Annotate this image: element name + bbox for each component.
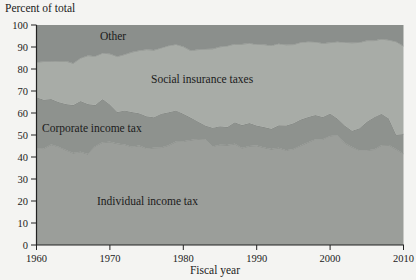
- x-tick-label: 1970: [99, 253, 120, 264]
- area-label-individual-income-tax: Individual income tax: [97, 195, 198, 207]
- x-tick-label: 1990: [246, 253, 267, 264]
- area-individual-income-tax: [37, 135, 404, 245]
- stacked-area-chart: 0102030405060708090100196019701980199020…: [0, 0, 416, 280]
- y-tick-label: 10: [18, 218, 29, 229]
- y-axis-title: Percent of total: [5, 2, 75, 14]
- federal-receipts-stacked-area-figure: 0102030405060708090100196019701980199020…: [0, 0, 416, 280]
- x-tick-label: 2010: [393, 253, 414, 264]
- y-tick-label: 50: [18, 130, 29, 141]
- y-tick-label: 70: [18, 86, 29, 97]
- x-axis-title: Fiscal year: [190, 264, 240, 277]
- y-tick-label: 20: [18, 196, 29, 207]
- area-label-other: Other: [100, 30, 126, 42]
- area-label-corporate-income-tax: Corporate income tax: [42, 122, 142, 135]
- y-tick-label: 0: [23, 240, 28, 251]
- x-tick-label: 1960: [26, 253, 47, 264]
- x-tick-label: 1980: [173, 253, 194, 264]
- y-tick-label: 60: [18, 108, 29, 119]
- y-tick-label: 100: [12, 20, 28, 31]
- y-tick-label: 90: [18, 42, 29, 53]
- x-tick-label: 2000: [320, 253, 341, 264]
- y-tick-label: 80: [18, 64, 29, 75]
- y-tick-label: 40: [18, 152, 29, 163]
- y-tick-label: 30: [18, 174, 29, 185]
- area-label-social-insurance-taxes: Social insurance taxes: [151, 73, 254, 85]
- chart-areas: [37, 25, 404, 245]
